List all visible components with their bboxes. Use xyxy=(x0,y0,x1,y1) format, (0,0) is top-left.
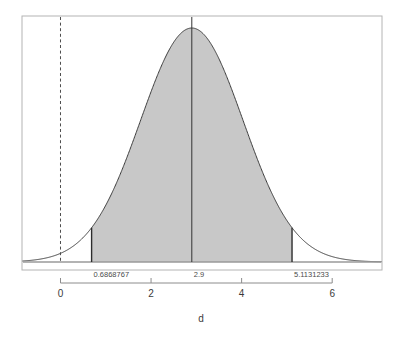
x-axis-ticks: 0246 xyxy=(58,278,336,299)
chart-canvas: 0.6868767 2.9 5.1131233 0246 d xyxy=(0,0,402,337)
x-axis-title: d xyxy=(198,313,204,324)
upper-bound-label: 5.1131233 xyxy=(294,270,329,279)
x-axis-tick-label: 6 xyxy=(329,288,335,299)
center-value-label: 2.9 xyxy=(194,270,204,279)
x-axis-tick-label: 0 xyxy=(58,288,64,299)
x-axis-tick-label: 2 xyxy=(148,288,154,299)
x-axis-tick-label: 4 xyxy=(239,288,245,299)
normal-distribution-plot: 0.6868767 2.9 5.1131233 0246 d xyxy=(0,0,402,337)
lower-bound-label: 0.6868767 xyxy=(94,270,129,279)
